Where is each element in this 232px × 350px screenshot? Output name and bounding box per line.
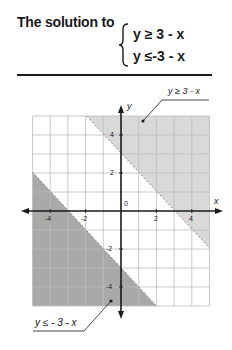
y-tick-label: 4 xyxy=(110,131,114,138)
x-tick-label: -2 xyxy=(81,215,87,222)
y-tick-label: -4 xyxy=(106,283,112,290)
origin-label: 0 xyxy=(124,200,128,207)
x-tick-label: -4 xyxy=(45,215,51,222)
upper-region-label: y ≥ 3 - x xyxy=(168,86,200,96)
coordinate-plane xyxy=(0,0,232,350)
lower-region-label: y ≤ - 3 - x xyxy=(35,317,77,328)
y-tick-label: 2 xyxy=(110,169,114,176)
y-tick-label: -2 xyxy=(106,245,112,252)
x-axis-label: x xyxy=(214,196,219,206)
y-axis-label: y xyxy=(127,101,132,111)
x-tick-label: 4 xyxy=(189,215,193,222)
x-tick-label: 2 xyxy=(154,215,158,222)
